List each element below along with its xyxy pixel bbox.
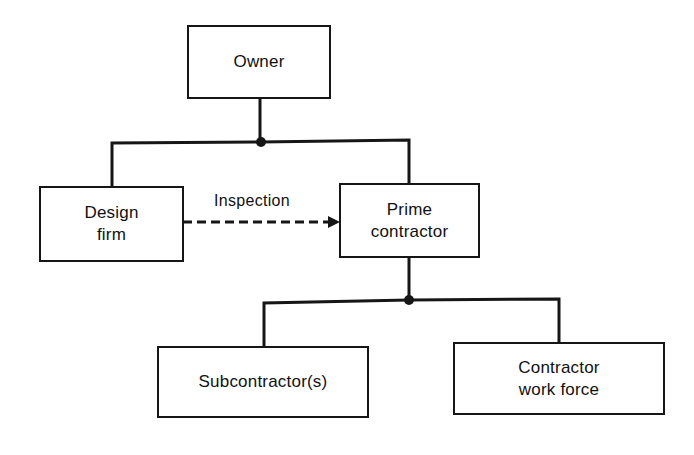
contractor-work-force-label-line1: Contractor — [518, 357, 599, 379]
owner-bus-line — [112, 140, 409, 188]
prime-junction-dot — [404, 295, 414, 305]
prime-contractor-box: Prime contractor — [339, 183, 480, 258]
subcontractors-box: Subcontractor(s) — [157, 346, 369, 418]
prime-contractor-label-line2: contractor — [371, 221, 449, 243]
owner-label: Owner — [233, 51, 284, 73]
owner-junction-dot — [256, 137, 266, 147]
contractor-work-force-label-line2: work force — [519, 379, 599, 401]
contractor-work-force-box: Contractor work force — [453, 342, 665, 415]
design-firm-box: Design firm — [39, 186, 184, 262]
design-firm-label-line1: Design — [84, 202, 138, 224]
prime-contractor-label-line1: Prime — [387, 199, 432, 221]
design-firm-label-line2: firm — [97, 224, 126, 246]
prime-bus-line — [264, 299, 559, 348]
inspection-label: Inspection — [214, 192, 290, 210]
owner-box: Owner — [187, 25, 331, 99]
subcontractors-label: Subcontractor(s) — [199, 371, 328, 393]
